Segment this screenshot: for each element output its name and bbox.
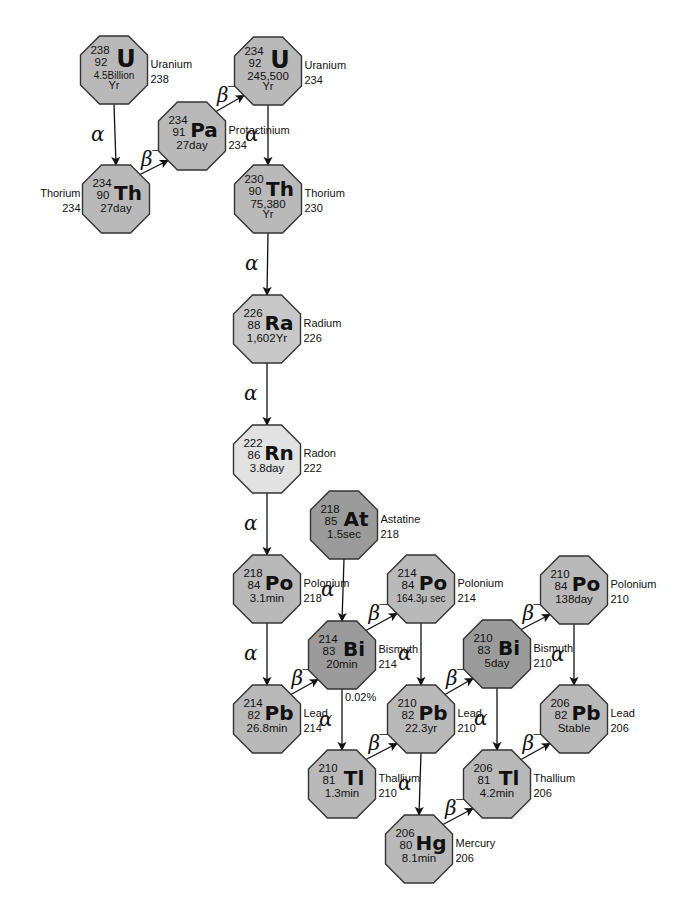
- atomic-number: 84: [402, 579, 415, 591]
- decay-arrow-alpha: α: [245, 233, 268, 295]
- atomic-number: 84: [248, 579, 261, 591]
- element-name: Lead: [304, 707, 328, 719]
- half-life: 26.8min: [247, 722, 288, 734]
- beta-symbol: β: [522, 731, 535, 755]
- beta-symbol: β: [368, 731, 381, 755]
- arrow-line: [419, 753, 421, 815]
- mass-number: 234: [92, 177, 112, 189]
- element-mass: 222: [304, 462, 322, 474]
- element-name: Mercury: [456, 837, 496, 849]
- element-name: Polonium: [611, 578, 657, 590]
- element-mass: 218: [304, 592, 322, 604]
- mass-number: 214: [397, 567, 417, 579]
- alpha-symbol: α: [245, 251, 259, 275]
- mass-number: 214: [243, 697, 263, 709]
- nuclide-Th230: 23090Th75,380YrThorium230: [235, 165, 345, 233]
- beta-symbol: β: [522, 601, 535, 625]
- element-name: Thallium: [534, 772, 576, 784]
- arrow-line: [114, 104, 116, 165]
- beta-symbol: β: [445, 666, 458, 690]
- arrow-line: [342, 559, 344, 621]
- atomic-number: 81: [323, 774, 336, 786]
- atomic-number: 81: [478, 774, 491, 786]
- element-name: Thorium: [40, 187, 80, 199]
- element-name: Polonium: [304, 577, 350, 589]
- atomic-number: 90: [249, 185, 262, 197]
- atomic-number: 86: [248, 449, 261, 461]
- atomic-number: 80: [400, 839, 413, 851]
- alpha-symbol: α: [91, 122, 105, 146]
- nuclide-Tl206: 20681Tl4.2minThallium206: [464, 750, 576, 818]
- atomic-number: 83: [478, 644, 491, 656]
- element-mass: 230: [305, 202, 323, 214]
- half-life: 4.2min: [480, 787, 515, 799]
- element-mass: 210: [458, 722, 476, 734]
- beta-symbol: β: [291, 666, 304, 690]
- element-name: Bismuth: [379, 643, 419, 655]
- decay-arrow-alpha: α: [244, 493, 267, 555]
- element-mass: 206: [611, 722, 629, 734]
- element-mass: 206: [534, 787, 552, 799]
- half-life: Stable: [558, 722, 591, 734]
- element-mass: 214: [304, 722, 322, 734]
- half-life-unit: Yr: [263, 208, 274, 220]
- element-mass: 210: [611, 593, 629, 605]
- decay-chain-canvas: αβ—β—ααααααβ—β—α0.02%αβ—β—αβ—ααβ—β— 2389…: [0, 0, 693, 898]
- nuclide-Po214: 21484Po164.3μ secPolonium214: [388, 555, 504, 623]
- nuclide-Pb210: 21082Pb22.3yrLead210: [388, 685, 482, 753]
- element-name: Uranium: [151, 58, 193, 70]
- element-mass: 210: [534, 657, 552, 669]
- nuclide-Th234: 23490Th27dayThorium234: [40, 165, 149, 233]
- half-life: 3.1min: [250, 592, 285, 604]
- element-name: Lead: [458, 707, 482, 719]
- element-mass: 234: [62, 202, 80, 214]
- atomic-number: 82: [402, 709, 415, 721]
- mass-number: 206: [395, 827, 414, 839]
- nuclide-Pb214: 21482Pb26.8minLead214: [234, 685, 328, 753]
- mass-number: 230: [244, 173, 263, 185]
- atomic-number: 90: [97, 189, 110, 201]
- mass-number: 210: [550, 568, 569, 580]
- half-life: 27day: [100, 202, 132, 214]
- element-symbol: Po: [419, 571, 447, 595]
- element-mass: 210: [379, 787, 397, 799]
- element-mass: 226: [304, 332, 322, 344]
- alpha-symbol: α: [244, 641, 258, 665]
- half-life: 8.1min: [402, 852, 437, 864]
- half-life: 3.8day: [250, 462, 285, 474]
- nuclide-U238: 23892U4.5BillionYrUranium238: [81, 36, 193, 104]
- mass-number: 218: [320, 503, 339, 515]
- half-life-unit: Yr: [263, 80, 274, 92]
- decay-chain-diagram: αβ—β—ααααααβ—β—α0.02%αβ—β—αβ—ααβ—β— 2389…: [0, 0, 693, 898]
- element-mass: 234: [229, 139, 247, 151]
- mass-number: 226: [243, 307, 262, 319]
- nuclide-Pb206: 20682PbStableLead206: [541, 685, 635, 753]
- decay-arrow-alpha: α: [551, 624, 574, 685]
- octagon-icon: [309, 750, 376, 818]
- element-name: Uranium: [305, 59, 347, 71]
- element-mass: 218: [381, 528, 399, 540]
- decay-arrow-alpha: α: [244, 363, 267, 425]
- half-life: 164.3μ sec: [396, 593, 445, 604]
- element-name: Thallium: [379, 772, 421, 784]
- element-mass: 214: [458, 592, 476, 604]
- beta-symbol: β: [444, 796, 457, 820]
- decay-arrow-alpha: α: [398, 753, 421, 815]
- nuclide-U234: 23492U245,500YrUranium234: [235, 37, 347, 105]
- decay-arrow-alpha: α: [474, 688, 497, 750]
- element-name: Protactinium: [229, 124, 290, 136]
- decay-arrow-alpha: α: [91, 104, 116, 165]
- element-name: Thorium: [305, 187, 345, 199]
- mass-number: 210: [473, 632, 492, 644]
- atomic-number: 92: [249, 57, 262, 69]
- nuclide-Po210: 21084Po138dayPolonium210: [541, 556, 657, 624]
- atomic-number: 92: [95, 56, 108, 68]
- element-name: Polonium: [458, 577, 504, 589]
- mass-number: 214: [318, 633, 338, 645]
- element-symbol: U: [116, 45, 136, 73]
- decay-arrow-alpha: α: [321, 559, 344, 621]
- beta-symbol: β: [216, 83, 229, 107]
- half-life: 1,602Yr: [247, 332, 287, 344]
- mass-number: 218: [243, 567, 262, 579]
- mass-number: 210: [397, 697, 416, 709]
